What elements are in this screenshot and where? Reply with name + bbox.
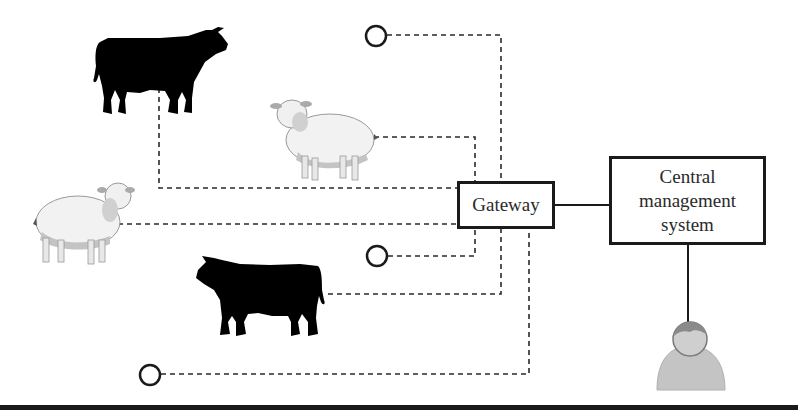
link-cow-2-gateway bbox=[328, 229, 501, 294]
cow-icon bbox=[196, 256, 325, 336]
user-icon bbox=[657, 322, 725, 390]
link-sensor-2-gateway bbox=[388, 229, 475, 256]
central-management-system-node: Central management system bbox=[609, 156, 766, 245]
sheep-icon bbox=[33, 183, 135, 264]
cms-label-line-3: system bbox=[661, 213, 714, 237]
link-sensor-3-gateway bbox=[161, 231, 529, 374]
sensor-node-icon bbox=[367, 246, 387, 266]
cms-label-line-2: management bbox=[639, 189, 736, 213]
livestock-network-diagram: .dash { fill: none; stroke: #2a2a2a; str… bbox=[0, 0, 798, 415]
cms-label-line-1: Central bbox=[660, 165, 716, 189]
gateway-node: Gateway bbox=[457, 181, 555, 229]
link-sensor-1-gateway bbox=[387, 35, 501, 181]
sheep-icon bbox=[270, 100, 378, 180]
cow-icon bbox=[93, 27, 228, 114]
link-sheep-1-gateway bbox=[374, 137, 475, 181]
sensor-node-icon bbox=[366, 26, 386, 46]
bottom-rule-divider bbox=[0, 405, 798, 410]
gateway-label: Gateway bbox=[472, 194, 540, 216]
sensor-node-icon bbox=[140, 365, 160, 385]
